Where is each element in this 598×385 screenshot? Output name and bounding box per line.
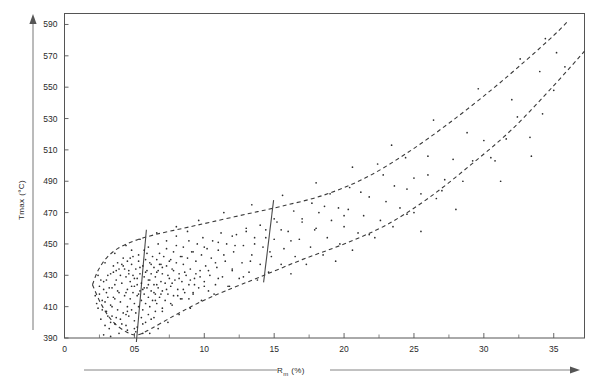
data-point (360, 191, 362, 193)
data-point (182, 289, 184, 291)
data-point (157, 287, 159, 289)
data-point (178, 314, 180, 316)
data-point (106, 311, 108, 313)
x-tick-label: 0 (62, 344, 67, 354)
data-point (150, 318, 152, 320)
data-point (164, 282, 166, 284)
data-point (114, 253, 116, 255)
data-point (500, 180, 502, 182)
data-point (441, 190, 443, 192)
data-point (243, 245, 245, 247)
data-point (132, 256, 134, 258)
data-point (101, 309, 103, 311)
data-point (166, 248, 168, 250)
data-point (293, 210, 295, 212)
data-point (352, 249, 354, 251)
y-axis-arrow (29, 14, 36, 330)
data-point (128, 315, 130, 317)
data-point (455, 209, 457, 211)
data-point (363, 215, 365, 217)
data-point (283, 248, 285, 250)
data-point (280, 263, 282, 265)
data-point (217, 249, 219, 251)
data-point (160, 293, 162, 295)
data-point (377, 163, 379, 165)
y-tick-label: 470 (43, 208, 57, 218)
data-point (262, 246, 264, 248)
data-point (189, 268, 191, 270)
data-point (177, 289, 179, 291)
data-point (166, 265, 168, 267)
data-point (265, 237, 267, 239)
data-point (153, 317, 155, 319)
data-point (148, 296, 150, 298)
data-point (136, 284, 138, 286)
data-point (129, 281, 131, 283)
data-point (185, 274, 187, 276)
data-point (192, 251, 194, 253)
data-point (542, 113, 544, 115)
data-point (181, 256, 183, 258)
data-point (107, 274, 109, 276)
data-point (152, 300, 154, 302)
data-point (118, 332, 120, 334)
data-point (110, 304, 112, 306)
data-point (132, 292, 134, 294)
data-point (223, 212, 225, 214)
data-point (315, 227, 317, 229)
data-point (224, 260, 226, 262)
data-point (329, 193, 331, 195)
data-point (529, 136, 531, 138)
data-point (99, 293, 101, 295)
data-point (427, 174, 429, 176)
data-point (150, 263, 152, 265)
x-axis-title: Rm (%) (277, 366, 305, 377)
data-point (117, 309, 119, 311)
data-point (203, 246, 205, 248)
y-tick-label: 510 (43, 145, 57, 155)
data-point (175, 245, 177, 247)
data-point (223, 254, 225, 256)
data-point (122, 265, 124, 267)
data-point (103, 289, 105, 291)
data-point (162, 267, 164, 269)
data-point (335, 260, 337, 262)
data-point (139, 267, 141, 269)
data-point (145, 259, 147, 261)
data-point (205, 265, 207, 267)
data-point (310, 246, 312, 248)
data-point (114, 298, 116, 300)
data-point (141, 300, 143, 302)
data-point (374, 237, 376, 239)
data-point (111, 306, 113, 308)
data-point (462, 180, 464, 182)
data-point (192, 293, 194, 295)
data-point (271, 256, 273, 258)
data-point (157, 328, 159, 330)
data-point (420, 231, 422, 233)
data-point (135, 331, 137, 333)
data-point (167, 274, 169, 276)
data-point (357, 232, 359, 234)
data-point (196, 243, 198, 245)
data-point (139, 238, 141, 240)
data-point (208, 270, 210, 272)
data-point (405, 157, 407, 159)
figure-root: Tmax (°C) 390410430450470490510530550570… (0, 0, 598, 385)
data-point (173, 270, 175, 272)
data-point (136, 278, 138, 280)
data-point (238, 278, 240, 280)
data-point (164, 300, 166, 302)
data-point (420, 193, 422, 195)
data-point (113, 271, 115, 273)
data-point (343, 215, 345, 217)
y-tick-label: 490 (43, 176, 57, 186)
data-point (125, 325, 127, 327)
data-point (301, 218, 303, 220)
data-point (250, 260, 252, 262)
data-point (178, 273, 180, 275)
data-point (118, 268, 120, 270)
data-point (208, 290, 210, 292)
data-point (472, 160, 474, 162)
x-tick-label: 30 (479, 344, 489, 354)
